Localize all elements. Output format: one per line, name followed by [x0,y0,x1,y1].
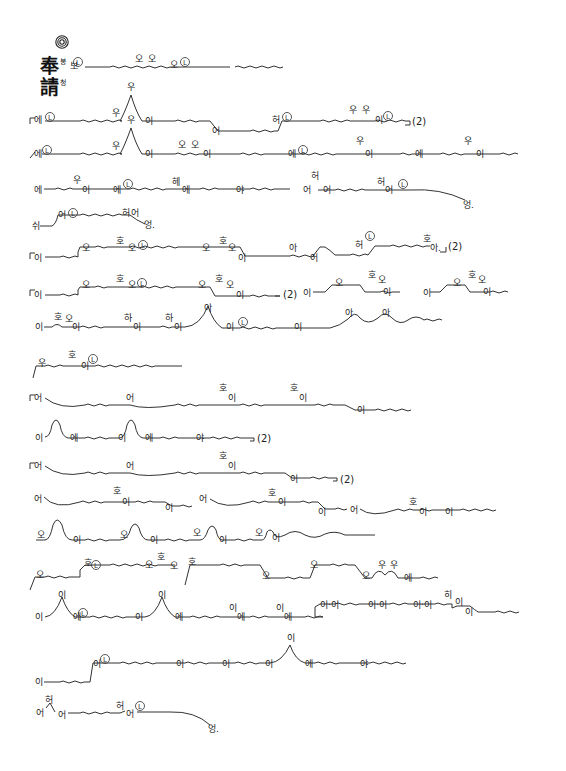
repeat-marker: (2) [283,290,297,300]
syllable: 우 [127,115,135,125]
syllable: 어 [199,494,207,504]
syllable: 아 [204,303,212,313]
syllable: 이 [82,185,90,195]
syllable: 어 [34,393,42,403]
syllable: 에 [305,659,313,669]
syllable: 어 [385,185,393,195]
syllable: 야 [236,185,244,195]
syllable: 우 [464,136,472,146]
syllable: 우 [362,105,370,115]
syllable: 하 [165,313,173,323]
syllable: 쉬 [32,221,40,231]
syllable: 오 [478,275,486,285]
syllable: 아 [345,308,353,318]
syllable: 우 [127,82,135,92]
svg-text:L: L [141,242,145,250]
syllable: 우 [112,141,120,151]
syllable: 오 [82,280,90,290]
syllable: 오 [362,571,370,581]
syllable: 호 [468,270,476,280]
syllable: 이 [299,393,307,403]
syllable: 이 [465,607,473,617]
syllable: 오 [120,530,128,540]
syllable: 이 [238,253,246,263]
svg-text:L: L [285,114,289,122]
syllable: 오 [198,280,206,290]
syllable: 이 [278,497,286,507]
syllable: 이 [35,322,43,332]
syllable: 오 [128,280,136,290]
syllable: 우 [390,560,398,570]
syllable: 오 [191,140,199,150]
syllable: 어 [131,208,139,218]
syllable: 호 [219,236,227,246]
syllable: 엉. [463,200,474,210]
syllable: 이 [81,361,89,371]
syllable: 이 [276,603,284,613]
syllable: 호 [116,274,124,284]
syllable: 오 [378,275,386,285]
syllable: 이 [476,149,484,159]
syllable: 호 [215,274,223,284]
svg-text:L: L [94,562,98,570]
syllable: 이 [228,393,236,403]
svg-text:L: L [386,113,390,121]
svg-text:L: L [183,59,187,67]
syllable: 에 [182,185,190,195]
syllable: 호 [268,488,276,498]
syllable: 오 [310,560,318,570]
score-line-9 [33,365,182,378]
syllable: 이 [222,659,230,669]
syllable: 오 [37,530,45,540]
syllable: 아 [289,243,297,253]
syllable: 어 [212,126,220,136]
score-line-10 [30,395,411,411]
syllable: 이 [228,461,236,471]
syllable: 호 [219,451,227,461]
svg-text:L: L [45,147,49,155]
syllable: 에 [34,115,42,125]
syllable: 오 [202,243,210,253]
syllable: 오 [145,560,153,570]
syllable: 이 [272,533,280,543]
svg-text:L: L [241,319,245,327]
syllable: 오 [335,278,343,288]
syllable: 엉. [208,724,219,734]
syllable: 이 [294,322,302,332]
syllable: 오 [255,528,263,538]
repeat-marker: (2) [412,117,426,127]
syllable: 이·이 [413,600,432,610]
vocal-score-lines: L L L L L L L L L L L L L L L L L L L [0,0,566,771]
syllable: 이 [318,507,326,517]
score-line-4 [44,188,465,200]
svg-text:L: L [140,280,144,288]
syllable: 에 [404,573,412,583]
syllable: 이 [35,612,43,622]
syllable: 히 [444,590,452,600]
syllable: 이·이 [368,600,387,610]
syllable: 에 [145,433,153,443]
syllable: 호 [219,383,227,393]
syllable: 우 [378,560,386,570]
syllable: 이 [419,507,427,517]
syllable: 어 [350,505,358,515]
syllable: 이 [145,116,153,126]
syllable: 허 [377,177,385,187]
svg-text:L: L [368,233,372,241]
syllable: 호 [68,350,76,360]
svg-text:L: L [91,356,95,364]
syllable: 헤 [172,177,180,187]
syllable: 어 [34,494,42,504]
syllable: 이 [34,253,42,263]
repeat-marker: (2) [448,242,462,252]
syllable: 오 [135,54,143,64]
syllable: 이 [357,405,365,415]
syllable: 어 [323,185,331,195]
syllable: 이 [145,149,153,159]
repeat-marker: (2) [340,475,354,485]
syllable: 이 [365,149,373,159]
syllable: 야 [360,659,368,669]
syllable: 오 [262,571,270,581]
syllable: 허 [122,208,130,218]
syllable: 이 [287,633,295,643]
